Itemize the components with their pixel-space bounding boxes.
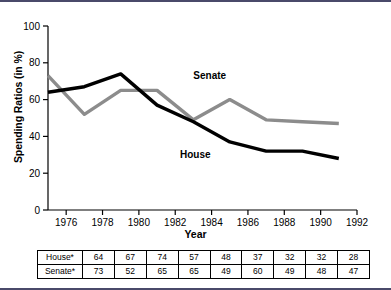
table-cell: 37 [242,251,274,265]
table-row: Senate*735265654960494847 [38,265,370,279]
data-table: House*646774574837323228Senate*735265654… [37,250,370,279]
y-tick-label: 100 [23,21,40,32]
table-row-label: House* [38,251,83,265]
table-cell: 57 [178,251,210,265]
x-tick-label: 1980 [128,217,151,228]
x-tick-label: 1982 [164,217,187,228]
table-cell: 48 [210,251,242,265]
table-cell: 32 [274,251,306,265]
table-cell: 60 [242,265,274,279]
x-tick-label: 1984 [200,217,223,228]
y-tick-label: 60 [29,94,41,105]
x-tick-label: 1988 [273,217,296,228]
table-cell: 65 [146,265,178,279]
series-label-senate: Senate [193,70,226,81]
line-chart-svg: 020406080100 197619781980198219841986198… [0,6,391,238]
series-line-house [48,74,339,159]
series-label-house: House [180,149,211,160]
table-row-label: Senate* [38,265,83,279]
table-cell: 52 [114,265,146,279]
table-cell: 65 [178,265,210,279]
x-tick-label: 1992 [346,217,369,228]
table-cell: 48 [306,265,338,279]
y-tick-label: 80 [29,57,41,68]
x-tick-label: 1978 [91,217,114,228]
x-axis-title: Year [0,228,391,240]
x-tick-label: 1990 [310,217,333,228]
x-tick-label: 1976 [55,217,78,228]
y-tick-label: 20 [29,168,41,179]
y-axis-ticks: 020406080100 [23,21,48,216]
table-cell: 49 [210,265,242,279]
table-cell: 32 [306,251,338,265]
table-cell: 74 [146,251,178,265]
table-row: House*646774574837323228 [38,251,370,265]
table-cell: 64 [83,251,115,265]
table-cell: 49 [274,265,306,279]
table-cell: 28 [338,251,370,265]
chart-frame: 020406080100 197619781980198219841986198… [0,0,391,290]
y-tick-label: 40 [29,131,41,142]
y-axis-title: Spending Ratios (in %) [12,27,24,187]
y-tick-label: 0 [34,205,40,216]
table-cell: 67 [114,251,146,265]
chart-plot-area: 020406080100 197619781980198219841986198… [0,6,391,238]
table-cell: 47 [338,265,370,279]
table-cell: 73 [83,265,115,279]
x-tick-label: 1986 [237,217,260,228]
x-axis-ticks: 197619781980198219841986198819901992 [55,210,369,228]
